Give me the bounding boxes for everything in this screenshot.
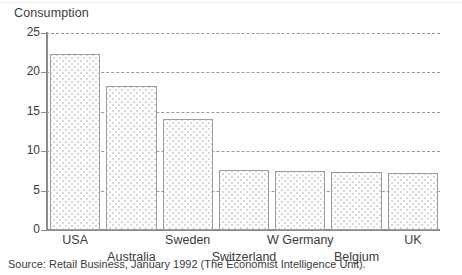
y-axis-tick-label: 0 (0, 222, 40, 236)
y-axis-title: Consumption (14, 6, 89, 20)
bar (219, 170, 269, 230)
x-axis-category-label: USA (62, 233, 88, 247)
y-axis-tick-mark (41, 230, 46, 231)
bar (388, 173, 438, 230)
x-axis-category-label: UK (404, 233, 421, 247)
x-axis-category-label: W Germany (267, 233, 334, 247)
y-axis-tick-label: 5 (0, 183, 40, 197)
y-axis-tick-label: 10 (0, 143, 40, 157)
top-rule (0, 2, 462, 3)
gridline (46, 151, 440, 152)
gridline (46, 112, 440, 113)
gridline (46, 33, 440, 34)
source-note: Source: Retail Business, January 1992 (T… (8, 258, 366, 270)
plot-area (46, 33, 440, 230)
bar (275, 171, 325, 230)
x-axis-category-label: Sweden (165, 233, 210, 247)
bar (106, 86, 156, 230)
bar (331, 172, 381, 230)
y-axis-tick-label: 25 (0, 25, 40, 39)
gridline (46, 72, 440, 73)
y-axis-tick-label: 20 (0, 64, 40, 78)
chart-figure: Consumption 0510152025 USAAustraliaSwede… (0, 0, 462, 275)
bar (50, 54, 100, 231)
y-axis-tick-label: 15 (0, 104, 40, 118)
bar (163, 119, 213, 230)
